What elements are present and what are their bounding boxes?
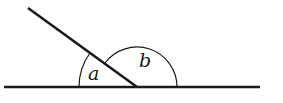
diagram-canvas: a b: [0, 0, 283, 103]
angle-diagram: a b: [0, 0, 283, 103]
angle-b-label: b: [139, 49, 151, 71]
slanted-ray: [28, 8, 137, 87]
angle-a-label: a: [88, 62, 99, 84]
